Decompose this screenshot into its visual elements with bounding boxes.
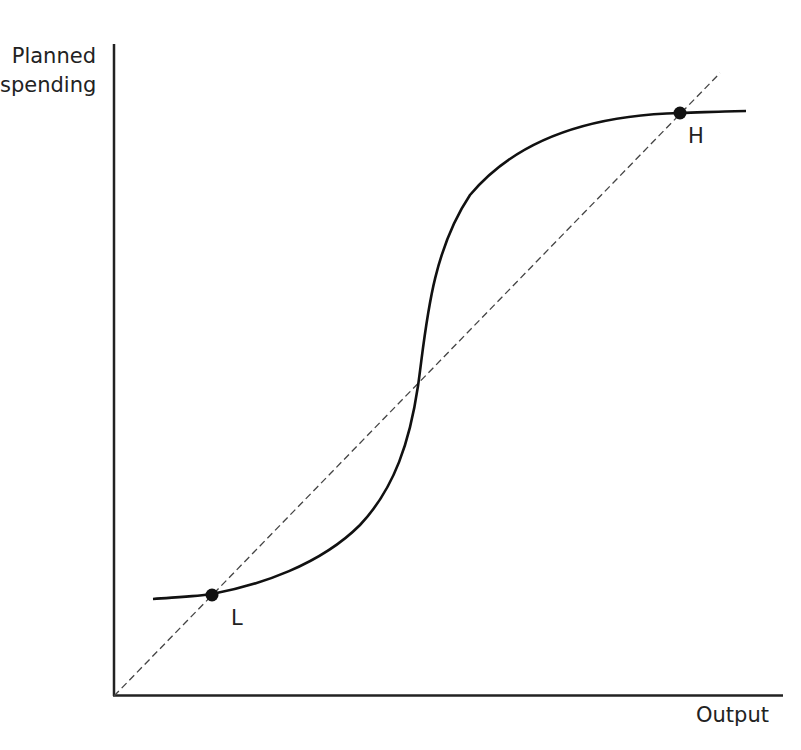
x-axis-label: Output <box>696 703 769 727</box>
y-axis-label: Planned spending <box>0 42 96 100</box>
point-l-label: L <box>231 606 243 630</box>
point-h-marker <box>674 107 687 120</box>
y-axis-label-line2: spending <box>0 71 96 100</box>
point-h-label: H <box>688 124 704 148</box>
point-l-marker <box>206 589 219 602</box>
y-axis-label-line1: Planned <box>0 42 96 71</box>
diagram-canvas <box>0 0 801 750</box>
planned-spending-curve <box>153 111 746 599</box>
